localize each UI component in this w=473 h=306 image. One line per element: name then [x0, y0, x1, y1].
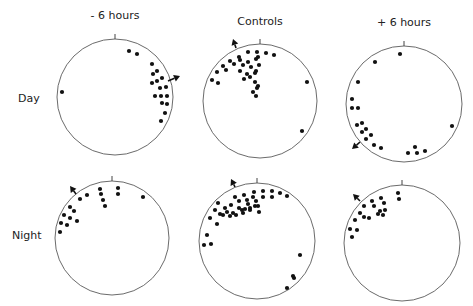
data-point: [209, 242, 213, 246]
data-point: [141, 195, 145, 199]
data-point: [246, 202, 250, 206]
data-point: [163, 111, 167, 115]
data-point: [221, 64, 225, 68]
data-point: [238, 69, 242, 73]
data-point: [246, 50, 250, 54]
data-point: [151, 72, 155, 76]
data-point: [305, 80, 309, 84]
data-point: [270, 189, 274, 193]
data-point: [300, 129, 304, 133]
data-point: [261, 189, 265, 193]
data-point: [379, 146, 383, 150]
data-point: [103, 204, 107, 208]
data-point: [155, 69, 159, 73]
data-point: [245, 72, 249, 76]
data-point: [159, 119, 163, 123]
data-point: [216, 201, 220, 205]
data-point: [213, 208, 217, 212]
data-point: [396, 191, 400, 195]
data-point: [348, 227, 352, 231]
data-point: [256, 204, 260, 208]
data-point: [356, 80, 360, 84]
data-point: [292, 276, 296, 280]
data-point: [229, 203, 233, 207]
column-labels: - 6 hours Controls + 6 hours: [91, 9, 432, 29]
data-point: [216, 81, 220, 85]
data-point: [224, 68, 228, 72]
data-point: [215, 70, 219, 74]
data-point: [383, 208, 387, 212]
data-point: [245, 198, 249, 202]
data-point: [254, 94, 258, 98]
data-point: [78, 197, 82, 201]
data-point: [415, 151, 419, 155]
data-point: [278, 191, 282, 195]
data-point: [369, 133, 373, 137]
data-point: [241, 63, 245, 67]
data-point: [398, 52, 402, 56]
panel-day-plus6: [346, 41, 462, 162]
data-point: [65, 223, 69, 227]
circular-orientation-diagram: - 6 hours Controls + 6 hours Day Night: [0, 0, 473, 306]
data-point: [261, 195, 265, 199]
data-point: [223, 206, 227, 210]
data-point: [364, 137, 368, 141]
data-point: [116, 186, 120, 190]
data-point: [208, 216, 212, 220]
data-point: [242, 193, 246, 197]
data-point: [68, 216, 72, 220]
data-point: [246, 60, 250, 64]
panels: [55, 34, 462, 301]
data-point: [356, 106, 360, 110]
data-point: [248, 75, 252, 79]
data-point: [164, 85, 168, 89]
data-point: [406, 151, 410, 155]
data-point: [242, 77, 246, 81]
data-point: [257, 210, 261, 214]
mean-direction-arrow-icon: [232, 39, 239, 48]
data-point: [160, 76, 164, 80]
data-point: [116, 192, 120, 196]
data-point: [159, 94, 163, 98]
data-point: [376, 212, 380, 216]
data-point: [253, 71, 257, 75]
data-point: [237, 199, 241, 203]
data-point: [228, 59, 232, 63]
data-point: [370, 199, 374, 203]
data-point: [360, 130, 364, 134]
data-point: [257, 63, 261, 67]
data-point: [72, 209, 76, 213]
data-point: [153, 94, 157, 98]
data-point: [135, 52, 139, 56]
data-point: [160, 101, 164, 105]
data-point: [98, 187, 102, 191]
data-point: [264, 51, 268, 55]
data-point: [381, 213, 385, 217]
data-point: [372, 143, 376, 147]
data-point: [202, 243, 206, 247]
data-point: [362, 204, 366, 208]
data-point: [60, 90, 64, 94]
data-point: [285, 194, 289, 198]
data-point: [256, 84, 260, 88]
orientation-circle: [203, 44, 317, 158]
data-point: [150, 81, 154, 85]
panel-day-controls: [203, 39, 317, 158]
data-point: [253, 80, 257, 84]
data-point: [99, 192, 103, 196]
data-point: [215, 222, 219, 226]
data-point: [382, 201, 386, 205]
data-point: [85, 193, 89, 197]
data-point: [233, 195, 237, 199]
data-point: [248, 208, 252, 212]
data-point: [355, 228, 359, 232]
data-point: [364, 127, 368, 131]
mean-direction-arrow-icon: [352, 142, 360, 149]
data-point: [225, 210, 229, 214]
orientation-circle: [55, 181, 169, 295]
data-point: [243, 207, 247, 211]
data-point: [350, 97, 354, 101]
data-point: [360, 121, 364, 125]
row-labels: Day Night: [12, 92, 42, 242]
data-point: [155, 79, 159, 83]
